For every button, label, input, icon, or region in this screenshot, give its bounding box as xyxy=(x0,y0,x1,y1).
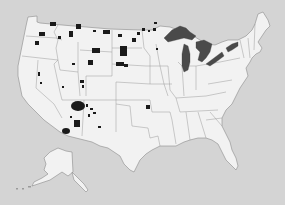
us-map xyxy=(0,0,285,205)
map-canvas xyxy=(0,0,285,205)
